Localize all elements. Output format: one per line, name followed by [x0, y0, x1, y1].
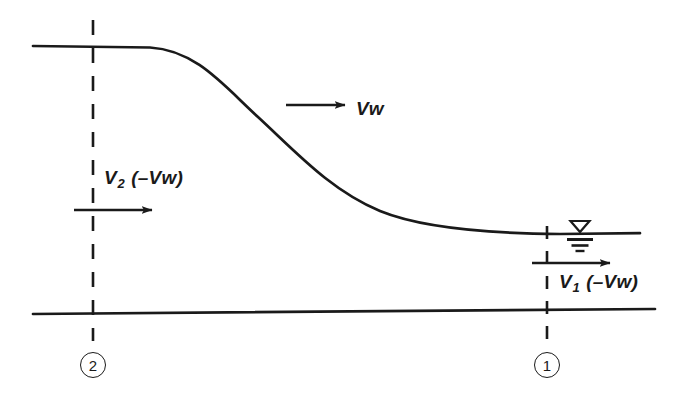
label-v1-symbol: V	[559, 271, 572, 292]
label-v1-qualifier: (–Vw)	[586, 271, 638, 292]
label-velocity-vw: Vw	[356, 99, 384, 118]
label-v2-qualifier: (–Vw)	[131, 167, 183, 188]
label-vw-symbol: Vw	[356, 98, 384, 119]
label-v2-symbol: V	[104, 167, 117, 188]
diagram-canvas	[0, 0, 679, 403]
label-velocity-v1: V1 (–Vw)	[559, 272, 638, 294]
section-marker-1: 1	[534, 352, 560, 378]
label-v2-subscript: 2	[117, 176, 126, 191]
channel-bed-line	[33, 309, 655, 314]
label-v1-subscript: 1	[572, 280, 581, 295]
water-surface-profile-curve	[33, 46, 640, 234]
section-marker-2: 2	[80, 352, 106, 378]
label-velocity-v2: V2 (–Vw)	[104, 168, 183, 190]
flow-diagram-figure: V2 (–Vw) Vw V1 (–Vw) 2 1	[0, 0, 679, 403]
water-table-icon	[567, 221, 593, 251]
